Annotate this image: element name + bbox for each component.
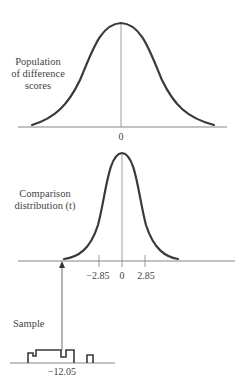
sample-label-text: Sample bbox=[13, 318, 45, 330]
comparison-label-line-2: distribution (t) bbox=[6, 200, 84, 212]
sample-histogram bbox=[28, 350, 93, 363]
comparison-label-line-1: Comparison bbox=[6, 188, 84, 200]
arrowhead-icon bbox=[59, 261, 65, 268]
sample-label: Sample bbox=[13, 318, 45, 330]
population-label-line-2: of difference bbox=[2, 68, 74, 80]
comparison-tick-0: 0 bbox=[120, 270, 125, 281]
sample-mean-tick: −12.05 bbox=[48, 366, 76, 377]
comparison-tick-pos: 2.85 bbox=[137, 270, 155, 281]
population-label: Population of difference scores bbox=[2, 56, 74, 92]
population-tick-0: 0 bbox=[119, 131, 124, 142]
comparison-label: Comparison distribution (t) bbox=[6, 188, 84, 212]
comparison-tick-neg: −2.85 bbox=[86, 270, 109, 281]
population-label-line-3: scores bbox=[2, 80, 74, 92]
population-label-line-1: Population bbox=[2, 56, 74, 68]
